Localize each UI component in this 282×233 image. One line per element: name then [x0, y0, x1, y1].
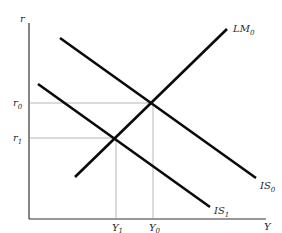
Y-tick-E0: Y0 [149, 222, 161, 233]
r-tick-E1: r1 [13, 132, 22, 146]
x-axis-label: Y [264, 221, 272, 232]
curves [38, 29, 256, 207]
curve-IS1 [38, 84, 210, 207]
label-IS0: IS0 [259, 180, 276, 194]
Y-tick-E1: Y1 [112, 222, 123, 233]
label-LM0: LM0 [232, 23, 255, 37]
y-axis-label: r [20, 13, 26, 24]
is-lm-diagram: r Y r0Y0r1Y1LM0IS0IS1 [0, 0, 282, 233]
curve-IS0 [60, 38, 256, 178]
r-tick-E0: r0 [13, 97, 23, 111]
labels: r0Y0r1Y1LM0IS0IS1 [13, 23, 276, 233]
label-IS1: IS1 [213, 205, 229, 219]
